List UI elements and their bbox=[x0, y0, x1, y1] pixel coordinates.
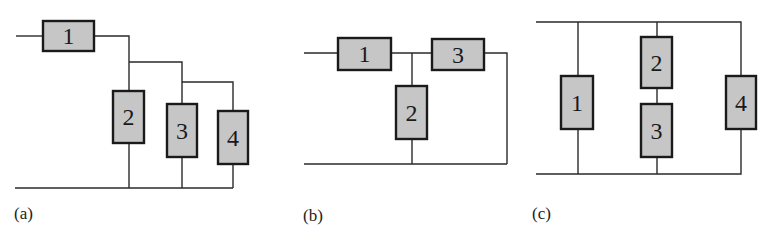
panel-a-component-2: 2 bbox=[113, 91, 144, 143]
panel-b-component-2: 2 bbox=[396, 86, 427, 139]
panel-b-wire-3-return bbox=[484, 53, 507, 164]
panel-b-label: (b) bbox=[303, 206, 323, 225]
panel-a-label: (a) bbox=[14, 204, 33, 223]
component-label: 1 bbox=[359, 41, 371, 67]
panel-c: 1 2 3 4 (c) bbox=[532, 22, 756, 223]
panel-c-label: (c) bbox=[532, 204, 551, 223]
panel-c-top-wire bbox=[536, 22, 741, 76]
component-label: 4 bbox=[227, 125, 239, 151]
panel-a-component-4: 4 bbox=[218, 111, 248, 164]
panel-a-wire-1-to-node bbox=[94, 36, 129, 91]
panel-b: 1 2 3 (b) bbox=[303, 38, 507, 225]
panel-c-component-1: 1 bbox=[561, 76, 593, 129]
component-label: 3 bbox=[452, 42, 464, 68]
component-label: 2 bbox=[123, 104, 135, 130]
panel-b-component-1: 1 bbox=[338, 38, 391, 70]
component-label: 1 bbox=[571, 90, 583, 116]
panel-b-component-3: 3 bbox=[432, 39, 484, 70]
panel-c-component-3: 3 bbox=[641, 104, 672, 157]
panel-c-component-2: 2 bbox=[641, 37, 672, 88]
component-label: 4 bbox=[735, 90, 747, 116]
component-label: 3 bbox=[176, 118, 188, 144]
component-label: 2 bbox=[406, 100, 418, 126]
panel-a-component-1: 1 bbox=[43, 21, 94, 51]
component-label: 1 bbox=[63, 23, 75, 49]
circuit-figure: 1 2 3 4 (a) 1 2 bbox=[0, 0, 768, 247]
component-label: 2 bbox=[651, 50, 663, 76]
panel-c-component-4: 4 bbox=[726, 76, 756, 129]
panel-a: 1 2 3 4 (a) bbox=[14, 21, 248, 223]
component-label: 3 bbox=[651, 118, 663, 144]
panel-c-bottom-wire bbox=[536, 129, 741, 174]
panel-a-component-3: 3 bbox=[167, 104, 197, 157]
